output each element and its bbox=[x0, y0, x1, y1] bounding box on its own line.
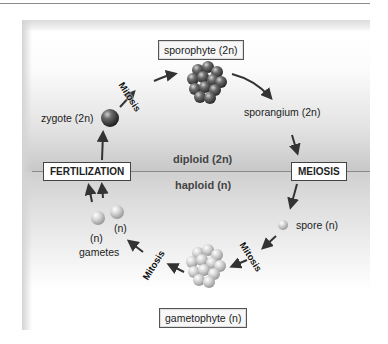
arrow-meiosis-to-spore bbox=[291, 184, 297, 206]
arrow-mitosis-to-sporophyte bbox=[154, 74, 174, 81]
gamete-ploidy-label-left: (n) bbox=[90, 232, 103, 244]
meiosis-box: MEIOSIS bbox=[291, 162, 347, 181]
arrow-gamete1-to-fertilization bbox=[89, 187, 92, 202]
gametes-label: gametes bbox=[79, 246, 119, 258]
arrow-mitosis-to-gametes bbox=[130, 242, 143, 252]
fertilization-box: FERTILIZATION bbox=[43, 162, 131, 181]
sporophyte-cluster-icon bbox=[187, 61, 227, 104]
sporangium-label: sporangium (2n) bbox=[244, 106, 320, 118]
sporophyte-box: sporophyte (2n) bbox=[158, 40, 244, 60]
zygote-label: zygote (2n) bbox=[41, 112, 94, 124]
gamete-ploidy-label-right: (n) bbox=[114, 222, 127, 234]
spore-label: spore (n) bbox=[296, 219, 338, 231]
gametophyte-box: gametophyte (n) bbox=[159, 308, 247, 328]
arrow-spore-to-mitosis bbox=[264, 236, 276, 247]
arrow-sporangium-to-meiosis bbox=[292, 135, 297, 152]
haploid-zone-label: haploid (n) bbox=[175, 179, 231, 191]
diploid-zone-label: diploid (2n) bbox=[173, 153, 232, 165]
arrow-sporophyte-to-sporangium bbox=[232, 74, 270, 97]
arrow-gamete2-to-fertilization bbox=[102, 186, 103, 198]
arrow-mitosis-to-gametophyte bbox=[233, 260, 247, 266]
gametophyte-cluster-icon bbox=[186, 244, 226, 288]
zygote-sphere-icon bbox=[101, 109, 119, 127]
arrow-gametophyte-to-mitosis bbox=[170, 265, 184, 272]
arrow-fertilization-to-zygote bbox=[102, 134, 103, 160]
spore-sphere-icon bbox=[278, 220, 288, 230]
